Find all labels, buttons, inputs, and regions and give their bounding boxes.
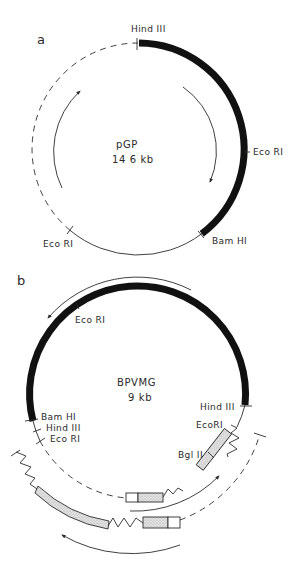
site-label-bgl2-b: Bgl II [178,450,203,460]
inner-box-stippled [138,493,163,502]
site-label-ecori-top-b: Eco RI [75,315,105,325]
outer-left-long-box [35,486,109,529]
outer-box-stippled [143,517,168,528]
right-dashed-end-tick [254,433,266,437]
plasmid-map-figure: a Hind III Eco RI Bam HI Eco RI pGP 14 6… [0,0,301,571]
ecori-left-tick-a [67,226,73,234]
zigzag-inner-bottom [163,488,183,497]
plasmid-b-left-dashed [40,441,126,498]
site-label-ecori-left-a: Eco RI [43,239,73,249]
plasmid-a-thin-segment [70,230,202,255]
site-label-ecori-right-a: Eco RI [253,147,283,157]
panel-a: a Hind III Eco RI Bam HI Eco RI pGP 14 6… [32,24,283,255]
panel-b: b [11,273,266,554]
inner-box-open [126,493,138,502]
site-label-bamhi-b: Bam HI [41,412,76,422]
panel-b-label: b [17,273,25,288]
plasmid-size-b: 9 kb [128,392,152,403]
site-label-hind3-left-b: Hind III [46,423,81,433]
plasmid-a-thick-insert [139,43,244,234]
zigzag-outer-bottom [108,518,143,527]
arrow-a-left [54,91,80,188]
panel-a-label: a [37,32,45,47]
site-label-ecori-right-b: EcoRI [196,420,223,430]
plasmid-name-b: BPVMG [117,377,156,388]
plasmid-a-dashed-segment [32,43,138,230]
plasmid-name-a: pGP [116,139,138,150]
outer-box-open [168,517,180,528]
plasmid-b-right-thin [237,405,245,427]
arrow-a-right [183,87,216,182]
ecori-left-tick-b [36,438,45,444]
site-label-ecori-left-b: Eco RI [50,434,80,444]
plasmid-size-a: 14 6 kb [112,154,154,165]
ecori-right-tick-b [231,425,237,428]
hind3-left-tick-b [33,429,41,432]
arrow-b-bottom [62,535,180,554]
zigzag-left [16,452,37,489]
site-label-hind3-right-b: Hind III [200,402,235,412]
site-label-hind3-a: Hind III [131,24,166,34]
site-label-bamhi-a: Bam HI [212,236,247,246]
